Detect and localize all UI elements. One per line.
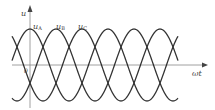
x-axis-arrow-icon [202,63,208,68]
series-label-uc: uC [78,23,87,31]
series-label-ua: uA [33,23,42,31]
y-axis-arrow-icon [28,5,33,12]
three-phase-waveform-diagram: u uA uB uC 0 ωt [0,0,215,110]
series-label-ub: uB [56,23,65,31]
x-axis-label: ωt [192,70,202,78]
origin-label: 0 [24,67,28,75]
y-axis-label: u [21,10,26,18]
waveform-plot [0,0,215,110]
